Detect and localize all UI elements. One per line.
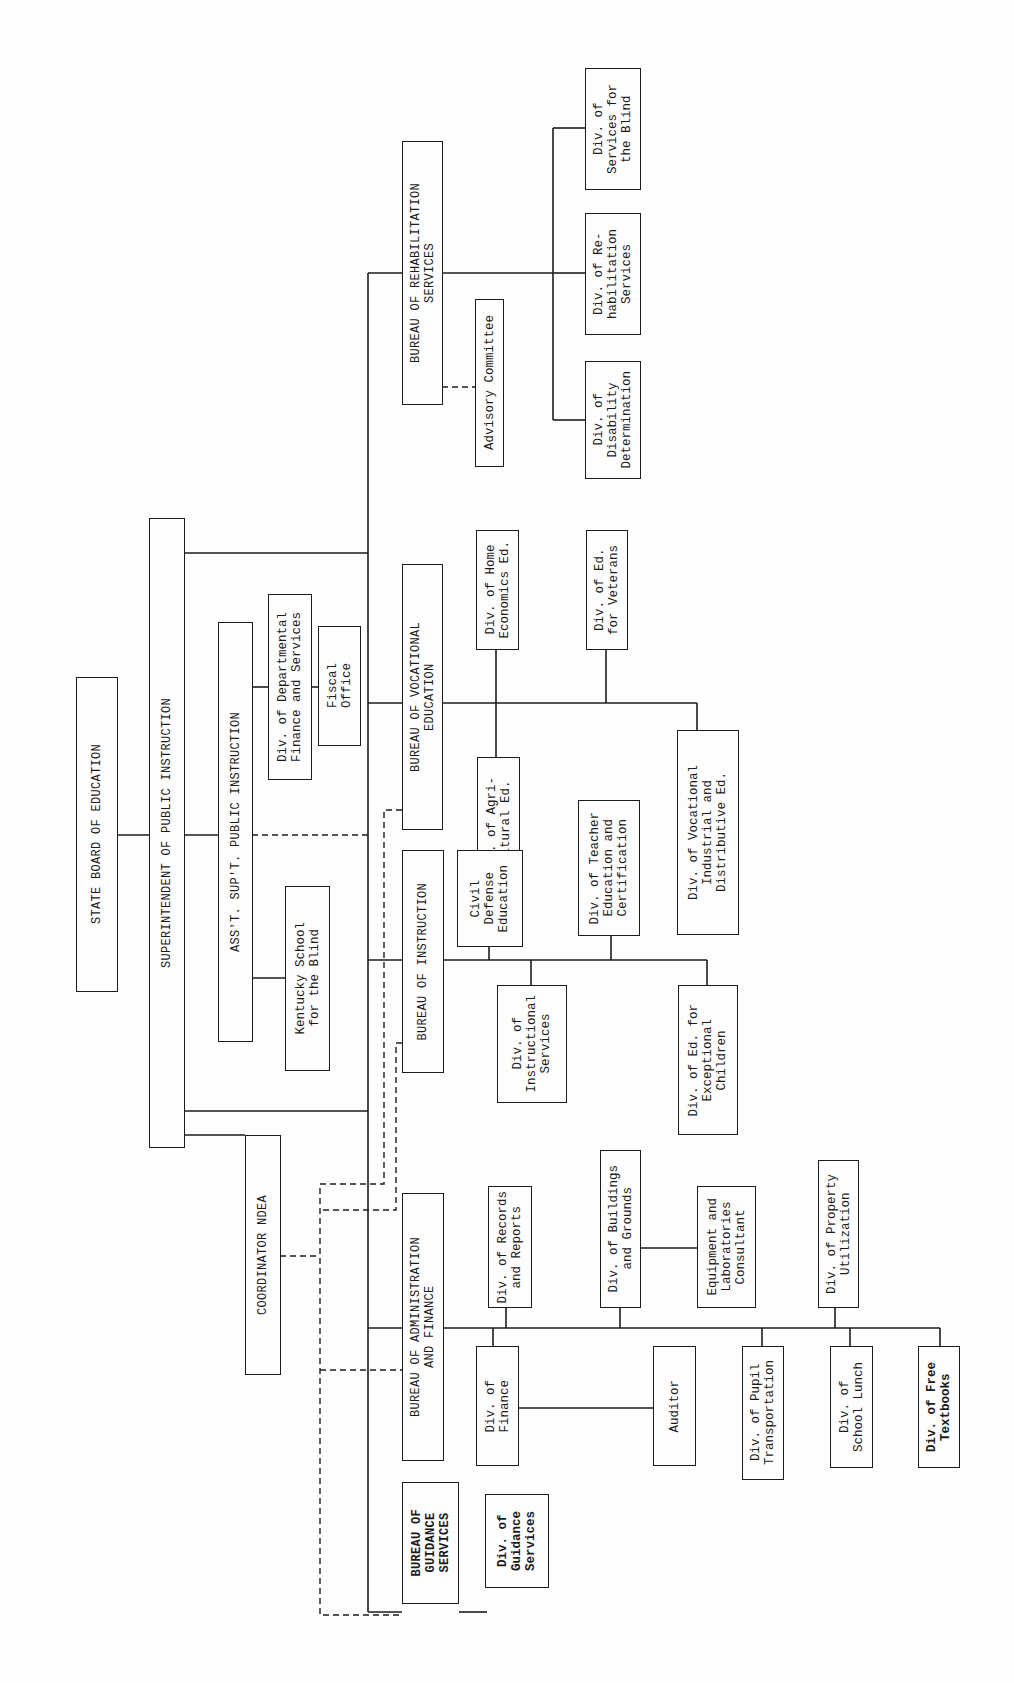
div-records-box: Div. of Records and Reports — [488, 1186, 532, 1308]
div-dept-finance-label: Div. of Departmental Finance and Service… — [276, 612, 304, 762]
fiscal-office-label: Fiscal Office — [326, 663, 354, 708]
div-home-econ-label: Div. of Home Economics Ed. — [484, 541, 512, 639]
asst-supt-label: ASS'T. SUP'T. PUBLIC INSTRUCTION — [229, 712, 243, 952]
div-property-label: Div. of Property Utilization — [825, 1174, 853, 1294]
div-exceptional-box: Div. of Ed. for Exceptional Children — [678, 985, 738, 1135]
div-buildings-box: Div. of Buildings and Grounds — [600, 1150, 641, 1308]
div-pupil-transport-box: Div. of Pupil Transportation — [742, 1346, 784, 1480]
div-instructional-box: Div. of Instructional Services — [497, 985, 567, 1103]
bureau-instruction-box: BUREAU OF INSTRUCTION — [402, 850, 444, 1073]
org-chart: STATE BOARD OF EDUCATION SUPERINTENDENT … — [0, 0, 1014, 1683]
div-school-lunch-label: Div. of School Lunch — [838, 1362, 866, 1452]
superintendent-box: SUPERINTENDENT OF PUBLIC INSTRUCTION — [149, 518, 185, 1148]
div-pupil-transport-label: Div. of Pupil Transportation — [749, 1360, 777, 1465]
div-voc-industrial-box: Div. of Vocational Industrial and Distri… — [677, 730, 739, 935]
div-finance-label: Div. of Finance — [484, 1380, 512, 1433]
bureau-guidance-box: BUREAU OF GUIDANCE SERVICES — [402, 1482, 459, 1604]
fiscal-office-box: Fiscal Office — [318, 626, 361, 746]
div-voc-industrial-label: Div. of Vocational Industrial and Distri… — [687, 765, 729, 900]
bureau-instruction-label: BUREAU OF INSTRUCTION — [416, 883, 430, 1041]
equipment-lab-label: Equipment and Laboratories Consultant — [706, 1198, 748, 1296]
div-guidance-box: Div. of Guidance Services — [485, 1494, 549, 1588]
advisory-committee-box: Advisory Committee — [475, 299, 504, 467]
bureau-admin-label: BUREAU OF ADMINISTRATION AND FINANCE — [409, 1237, 437, 1417]
equipment-lab-box: Equipment and Laboratories Consultant — [697, 1186, 756, 1308]
state-board-label: STATE BOARD OF EDUCATION — [90, 744, 104, 924]
div-finance-box: Div. of Finance — [476, 1346, 519, 1466]
bureau-rehab-box: BUREAU OF REHABILITATION SERVICES — [402, 141, 443, 405]
div-services-blind-box: Div. of Services for the Blind — [585, 68, 641, 190]
div-guidance-label: Div. of Guidance Services — [496, 1511, 538, 1571]
div-free-textbooks-label: Div. of Free Textbooks — [925, 1362, 953, 1452]
ky-school-blind-label: Kentucky School for the Blind — [294, 922, 322, 1035]
bureau-vocational-label: BUREAU OF VOCATIONAL EDUCATION — [409, 622, 437, 772]
div-ed-veterans-label: Div. of Ed. for Veterans — [593, 545, 621, 635]
div-dept-finance-box: Div. of Departmental Finance and Service… — [268, 594, 312, 780]
auditor-box: Auditor — [653, 1346, 696, 1466]
div-records-label: Div. of Records and Reports — [496, 1191, 524, 1304]
div-school-lunch-box: Div. of School Lunch — [830, 1346, 873, 1468]
coordinator-ndea-label: COORDINATOR NDEA — [256, 1195, 270, 1315]
div-teacher-ed-box: Div. of Teacher Education and Certificat… — [578, 800, 640, 936]
bureau-vocational-box: BUREAU OF VOCATIONAL EDUCATION — [402, 564, 443, 830]
superintendent-label: SUPERINTENDENT OF PUBLIC INSTRUCTION — [160, 698, 174, 968]
civil-defense-box: Civil Defense Education — [457, 850, 523, 947]
div-exceptional-label: Div. of Ed. for Exceptional Children — [687, 1004, 729, 1117]
auditor-label: Auditor — [668, 1380, 682, 1433]
civil-defense-label: Civil Defense Education — [469, 865, 511, 933]
div-free-textbooks-box: Div. of Free Textbooks — [918, 1346, 960, 1468]
div-property-box: Div. of Property Utilization — [818, 1160, 859, 1308]
advisory-committee-label: Advisory Committee — [483, 315, 497, 450]
div-disability-label: Div. of Disability Determination — [592, 371, 634, 469]
div-buildings-label: Div. of Buildings and Grounds — [607, 1165, 635, 1293]
coordinator-ndea-box: COORDINATOR NDEA — [245, 1135, 281, 1375]
bureau-admin-box: BUREAU OF ADMINISTRATION AND FINANCE — [402, 1193, 444, 1461]
bureau-guidance-label: BUREAU OF GUIDANCE SERVICES — [410, 1509, 452, 1577]
div-ed-veterans-box: Div. of Ed. for Veterans — [586, 530, 628, 650]
div-teacher-ed-label: Div. of Teacher Education and Certificat… — [588, 812, 630, 925]
div-rehab-services-label: Div. of Re- habilitation Services — [592, 229, 634, 319]
div-home-econ-box: Div. of Home Economics Ed. — [476, 530, 519, 650]
ky-school-blind-box: Kentucky School for the Blind — [285, 886, 330, 1071]
div-rehab-services-box: Div. of Re- habilitation Services — [585, 213, 641, 335]
bureau-rehab-label: BUREAU OF REHABILITATION SERVICES — [409, 183, 437, 363]
div-disability-box: Div. of Disability Determination — [585, 361, 641, 479]
state-board-box: STATE BOARD OF EDUCATION — [76, 677, 118, 992]
asst-supt-box: ASS'T. SUP'T. PUBLIC INSTRUCTION — [218, 622, 253, 1042]
div-instructional-label: Div. of Instructional Services — [511, 995, 553, 1093]
div-services-blind-label: Div. of Services for the Blind — [592, 84, 634, 174]
